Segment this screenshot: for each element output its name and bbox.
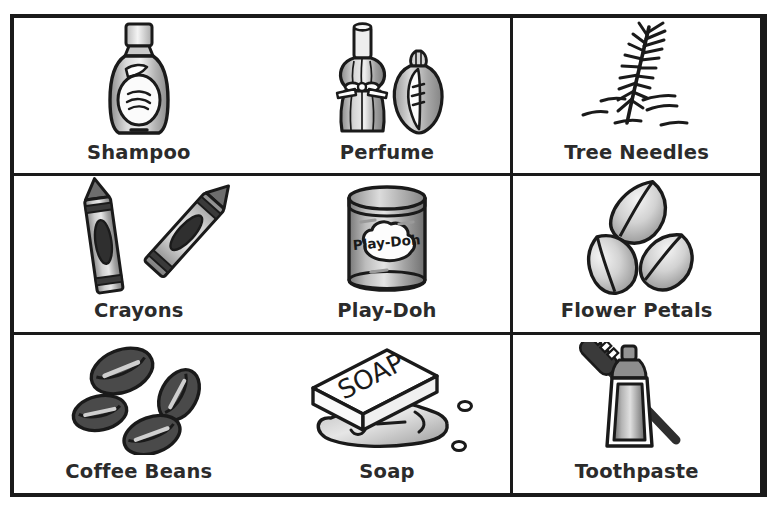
cell-label-toothpaste: Toothpaste	[575, 462, 699, 487]
cell-label-play-doh: Play-Doh	[337, 301, 436, 326]
shampoo-bottle-illustration	[14, 18, 264, 143]
cell-label-crayons: Crayons	[94, 301, 183, 326]
grid-cell-coffee-beans[interactable]: Coffee Beans	[14, 335, 264, 493]
grid-cell-toothpaste[interactable]: Toothpaste	[513, 335, 763, 493]
cell-label-coffee-beans: Coffee Beans	[65, 462, 212, 487]
grid-cell-flower-petals[interactable]: Flower Petals	[513, 176, 763, 334]
cell-label-shampoo: Shampoo	[87, 143, 191, 168]
perfume-bottles-illustration	[264, 18, 511, 143]
grid-cell-soap[interactable]: SOAP Soap	[264, 335, 514, 493]
two-crayons-illustration	[14, 176, 264, 301]
grid-cell-play-doh[interactable]: Play-Doh Play-Doh	[264, 176, 514, 334]
cell-label-soap: Soap	[359, 462, 414, 487]
cell-label-flower-petals: Flower Petals	[561, 301, 713, 326]
grid-cell-perfume[interactable]: Perfume	[264, 18, 514, 176]
soap-bar-puddle-illustration: SOAP	[264, 335, 511, 463]
cell-label-tree-needles: Tree Needles	[564, 143, 709, 168]
cell-label-perfume: Perfume	[340, 143, 434, 168]
grid-cell-crayons[interactable]: Crayons	[14, 176, 264, 334]
three-petals-illustration	[513, 176, 760, 301]
items-grid: Shampoo	[10, 14, 767, 497]
grid-cell-shampoo[interactable]: Shampoo	[14, 18, 264, 176]
pine-branch-needles-illustration	[513, 18, 760, 143]
worksheet-page: Shampoo	[0, 0, 779, 510]
grid-cell-tree-needles[interactable]: Tree Needles	[513, 18, 763, 176]
play-doh-can-illustration: Play-Doh	[264, 176, 511, 301]
four-coffee-beans-illustration	[14, 335, 264, 463]
toothpaste-tube-brush-illustration	[513, 335, 760, 463]
